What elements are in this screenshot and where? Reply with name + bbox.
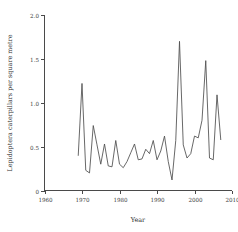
x-tick-label: 2010: [225, 197, 238, 203]
x-tick-label: 1970: [75, 197, 90, 203]
x-tick-label: 1990: [150, 197, 165, 203]
x-tick-label: 1980: [113, 197, 128, 203]
data-series-line: [78, 41, 221, 180]
y-tick-label: 2.0: [30, 13, 39, 19]
y-tick-label: 0: [35, 189, 39, 195]
line-chart: 00.51.01.52.0 196019701980199020002010 Y…: [0, 0, 238, 232]
chart-page: 00.51.01.52.0 196019701980199020002010 Y…: [0, 0, 238, 232]
x-tick-label: 2000: [188, 197, 203, 203]
y-axis-title: Lepidoptera caterpillars per square metr…: [6, 34, 14, 171]
x-tick-label: 1960: [38, 197, 53, 203]
axes-group: [45, 15, 233, 191]
y-tick-label: 0.5: [30, 145, 39, 151]
y-tick-label: 1.5: [30, 57, 39, 63]
y-tick-label: 1.0: [30, 101, 39, 107]
x-axis-tick-labels: 196019701980199020002010: [38, 197, 238, 203]
x-axis-title: Year: [130, 216, 146, 224]
y-axis-tick-labels: 00.51.01.52.0: [30, 13, 39, 195]
